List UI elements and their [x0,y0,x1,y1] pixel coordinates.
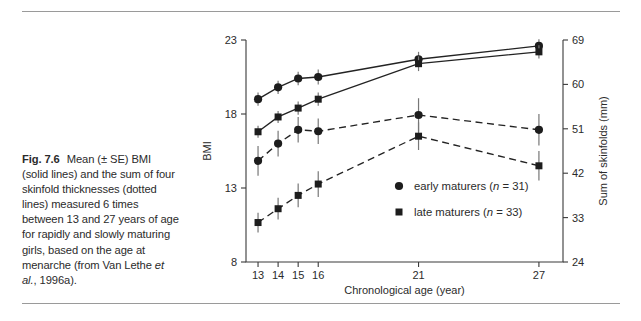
legend-n-value: = 33) [493,206,522,218]
y2-axis-tick-label: 33 [572,212,584,224]
data-point-circle [254,95,262,103]
data-point-square [535,48,542,55]
data-point-circle [274,83,282,91]
data-point-circle [314,127,322,135]
data-point-circle [274,140,282,148]
axis-titles-group: BMISum of skinfolds (mm)Chronological ag… [201,96,609,296]
data-point-circle [414,111,422,119]
data-point-square [255,219,262,226]
x-axis-tick-label: 21 [412,269,424,281]
y2-axis-tick-label: 24 [572,256,584,268]
legend-marker-square [396,209,403,216]
x-axis-title: Chronological age (year) [344,284,464,296]
legend-label: early maturers ( [414,180,493,192]
data-point-square [415,60,422,67]
legend-group: early maturers (n = 31)late maturers (n … [395,180,529,218]
legend-entry: late maturers (n = 33) [414,206,523,218]
y2-axis-tick-label: 60 [572,78,584,90]
y-axis-tick-label: 23 [225,34,237,46]
data-point-circle [314,73,322,81]
legend-entry: early maturers (n = 31) [414,180,529,192]
y-axis-title: BMI [201,141,213,161]
data-point-circle [294,74,302,82]
y2-axis-tick-label: 51 [572,123,584,135]
series-line [258,52,539,132]
data-point-square [255,128,262,135]
data-point-square [295,192,302,199]
chart-svg: 8131823243342516069131415162127 early ma… [0,0,641,321]
series-line [258,115,539,161]
series-line [258,46,539,99]
y2-axis-title: Sum of skinfolds (mm) [597,96,609,205]
y-axis-tick-label: 8 [231,256,237,268]
axes-group: 8131823243342516069131415162127 [225,34,585,281]
data-point-square [415,133,422,140]
legend-label: late maturers ( [414,206,487,218]
data-point-square [275,113,282,120]
y2-axis-tick-label: 69 [572,34,584,46]
data-point-square [275,205,282,212]
figure-root: Fig. 7.6Mean (± SE) BMI(solid lines) and… [0,0,641,321]
data-point-square [295,105,302,112]
data-point-square [315,181,322,188]
x-axis-tick-label: 14 [272,269,284,281]
x-axis-tick-label: 27 [533,269,545,281]
series-group [254,39,543,232]
data-point-circle [294,126,302,134]
axis-frame [246,40,563,262]
legend-marker-circle [395,182,403,190]
chart-plot-area: 8131823243342516069131415162127 early ma… [0,0,641,321]
y2-axis-tick-label: 42 [572,167,584,179]
x-axis-tick-label: 15 [292,269,304,281]
data-point-circle [254,157,262,165]
y-axis-tick-label: 18 [225,108,237,120]
data-point-circle [535,126,543,134]
x-axis-tick-label: 16 [312,269,324,281]
x-axis-tick-label: 13 [252,269,264,281]
legend-n-value: = 31) [499,180,528,192]
data-point-square [535,162,542,169]
y-axis-tick-label: 13 [225,182,237,194]
data-point-square [315,96,322,103]
